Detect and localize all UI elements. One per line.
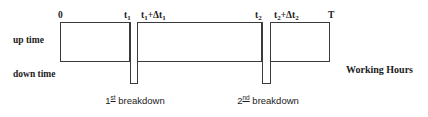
- tick-text-t0: 0: [58, 10, 63, 20]
- uptime-segment-3: [270, 22, 330, 62]
- tick-label-t1-plus-delta: t1+Δt1: [141, 10, 166, 20]
- downtime-bar-1: [130, 22, 138, 84]
- tick-subscript-t1: 1: [127, 14, 131, 22]
- tick-label-t0: 0: [58, 10, 63, 20]
- tick-text-tend: T: [328, 10, 334, 20]
- tick-label-t1: t1: [124, 10, 131, 20]
- figure-canvas: 0 t1 t1+Δt1 t2 t2+Δt2 T up time down tim…: [0, 0, 428, 117]
- downtime-bar-2: [262, 22, 271, 84]
- breakdown-label-2: breakdown: [250, 95, 299, 106]
- tick-label-tend: T: [328, 10, 334, 20]
- tick-subscript-delta-t1: 1: [162, 14, 166, 22]
- tick-subscript-t1p: 1: [144, 14, 148, 22]
- breakdown-ordinal-suffix-2: nd: [242, 94, 249, 101]
- tick-subscript-t2: 2: [258, 14, 262, 22]
- tick-subscript-t2p: 2: [277, 14, 281, 22]
- uptime-segment-1: [60, 22, 130, 62]
- row-label-down-time: down time: [13, 69, 56, 80]
- tick-text-delta-t1: +Δt: [148, 10, 163, 20]
- uptime-segment-2: [137, 22, 262, 62]
- tick-text-delta-t2: +Δt: [281, 10, 296, 20]
- row-label-up-time: up time: [13, 35, 44, 46]
- tick-label-t2-plus-delta: t2+Δt2: [274, 10, 299, 20]
- tick-subscript-delta-t2: 2: [295, 14, 299, 22]
- breakdown-caption-2: 2nd breakdown: [231, 95, 305, 106]
- tick-label-t2: t2: [255, 10, 262, 20]
- breakdown-label-1: breakdown: [116, 95, 165, 106]
- axis-title-working-hours: Working Hours: [346, 64, 413, 75]
- breakdown-caption-1: 1st breakdown: [99, 95, 171, 106]
